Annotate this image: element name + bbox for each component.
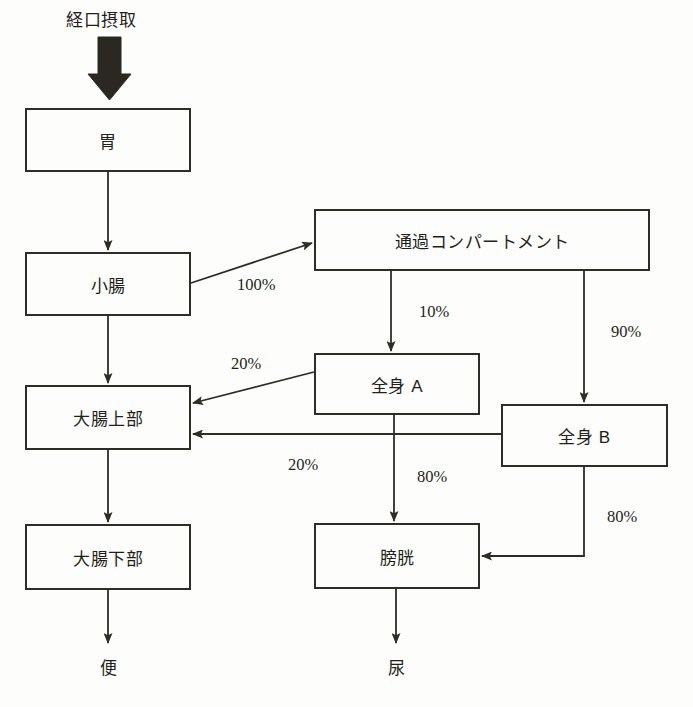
edge-label-systemic-b-to-bladder: 80% — [607, 507, 637, 527]
label-urine: 尿 — [388, 654, 406, 679]
node-stomach[interactable]: 胃 — [25, 108, 191, 172]
edge-label-systemic-a-to-upper-colon: 20% — [231, 354, 261, 374]
node-systemic-b[interactable]: 全身 B — [501, 404, 668, 467]
node-label: 大腸下部 — [73, 545, 143, 570]
node-label: 全身 A — [371, 372, 423, 397]
edge-intake-to-stomach — [88, 37, 131, 100]
edge-systemic-a-to-upper-colon — [193, 372, 314, 403]
node-label: 全身 B — [558, 423, 610, 448]
edge-label-systemic-a-to-bladder: 80% — [417, 467, 447, 487]
label-feces: 便 — [100, 654, 118, 679]
edge-systemic-b-to-bladder — [482, 467, 584, 556]
node-systemic-a[interactable]: 全身 A — [314, 353, 480, 415]
flow-diagram: 胃 小腸 通過コンパートメント 全身 A 全身 B 大腸上部 大腸下部 膀胱 経… — [0, 0, 693, 707]
node-upper-colon[interactable]: 大腸上部 — [25, 385, 191, 450]
edge-label-transit-to-systemic-a: 10% — [419, 302, 449, 322]
node-lower-colon[interactable]: 大腸下部 — [25, 524, 191, 590]
label-oral-intake: 経口摂取 — [66, 6, 136, 31]
node-label: 胃 — [99, 128, 117, 153]
edge-label-systemic-b-to-upper-colon: 20% — [288, 455, 318, 475]
node-label: 通過コンパートメント — [395, 228, 570, 253]
node-label: 小腸 — [91, 272, 126, 297]
node-bladder[interactable]: 膀胱 — [314, 523, 480, 589]
edge-label-si-to-transit: 100% — [237, 275, 276, 295]
node-transit-compartment[interactable]: 通過コンパートメント — [314, 209, 650, 271]
node-label: 膀胱 — [380, 544, 415, 569]
node-small-intestine[interactable]: 小腸 — [25, 252, 191, 316]
node-label: 大腸上部 — [73, 405, 143, 430]
edge-label-transit-to-systemic-b: 90% — [611, 322, 641, 342]
